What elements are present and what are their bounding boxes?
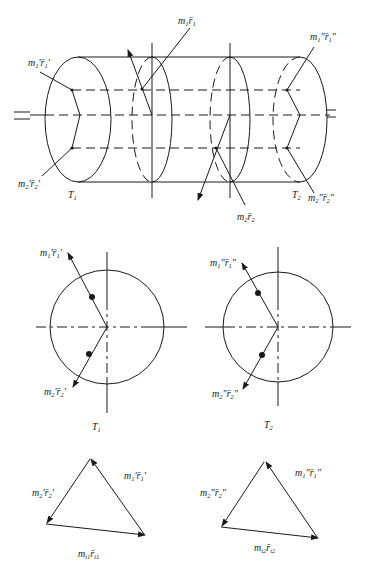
label-T2: T2 bbox=[292, 189, 302, 201]
rotor-cylinder-view: m1r̄1 m1'r̄1' m2'r̄2' T1 T2 m2r̄2 m1"r̄1… bbox=[14, 15, 337, 223]
label-m2F2-dprime: m2"r̄2" bbox=[308, 192, 335, 204]
label-m2r2: m2r̄2 bbox=[237, 211, 255, 223]
label-T1: T1 bbox=[68, 189, 77, 201]
plane-T1-ellipse bbox=[45, 57, 111, 182]
label-T1-vec2: m2'r̄2' bbox=[44, 386, 67, 398]
vector-m1r1 bbox=[128, 50, 152, 115]
label-poly1-side-b: m1'r̄1' bbox=[124, 470, 147, 482]
balancing-diagram: m1r̄1 m1'r̄1' m2'r̄2' T1 T2 m2r̄2 m1"r̄1… bbox=[0, 0, 368, 571]
label-poly1-side-a: m2'r̄2' bbox=[32, 487, 55, 499]
plane-1-ellipse-hidden bbox=[132, 57, 152, 182]
plane-T1-view: m1'r̄1' m2'r̄2' T1 bbox=[36, 247, 187, 433]
plane-2-ellipse bbox=[230, 57, 250, 182]
label-T1-plane: T1 bbox=[92, 421, 101, 433]
label-T2-vec2: m2"r̄2" bbox=[212, 388, 239, 400]
label-m1F1-dprime: m1"r̄1" bbox=[310, 31, 337, 43]
vector-polygon-T2: m2"r̄2" m1"r̄1" mt2r̄t2 bbox=[200, 462, 322, 554]
label-T2-vec1: m1"r̄1" bbox=[210, 257, 237, 269]
shaft-end-left-icon bbox=[14, 112, 30, 119]
vector-polygon-T1: m2'r̄2' m1'r̄1' mt1r̄t1 bbox=[32, 459, 147, 560]
label-poly2-closing: mt2r̄t2 bbox=[254, 542, 276, 554]
label-T1-vec1: m1'r̄1' bbox=[40, 247, 63, 259]
label-poly1-closing: mt1r̄t1 bbox=[78, 548, 99, 560]
plane-T2-ellipse bbox=[300, 57, 327, 182]
vector-m1F1-prime bbox=[68, 253, 107, 327]
label-m1F1-prime: m1'r̄1' bbox=[28, 57, 51, 69]
label-poly2-side-a: m2"r̄2" bbox=[200, 487, 227, 499]
vector-m2r2 bbox=[198, 115, 230, 200]
vector-m2F2-dprime bbox=[243, 327, 278, 389]
plane-T2-view: m1"r̄1" m2"r̄2" T2 bbox=[205, 247, 351, 431]
label-m1r1: m1r̄1 bbox=[178, 15, 196, 27]
label-m2F2-prime: m2'r̄2' bbox=[18, 178, 41, 190]
plane-2-ellipse-hidden bbox=[210, 57, 230, 182]
vector-m2F2-prime bbox=[73, 327, 107, 387]
label-T2-plane: T2 bbox=[264, 419, 274, 431]
label-poly2-side-b: m1"r̄1" bbox=[295, 467, 322, 479]
plane-1-ellipse bbox=[152, 57, 172, 182]
shaft-end-right-icon bbox=[327, 110, 336, 117]
